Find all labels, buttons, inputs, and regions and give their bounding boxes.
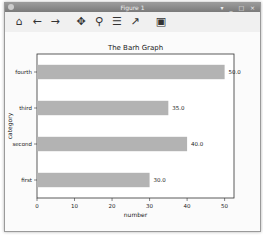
x-tick-label: 0: [35, 203, 39, 209]
y-axis-label: category: [6, 112, 14, 139]
x-tick-label: 50: [221, 203, 228, 209]
bar-first: [37, 173, 150, 187]
y-tick-label: fourth: [15, 69, 32, 75]
x-tick-label: 30: [146, 203, 153, 209]
x-axis-label: number: [124, 211, 148, 218]
x-tick-label: 40: [184, 203, 191, 209]
data-label: 50.0: [229, 69, 242, 75]
data-label: 30.0: [154, 177, 167, 183]
home-icon[interactable]: ⌂: [12, 15, 26, 29]
barh-chart: The Barh Graph30.0first40.0second35.0thi…: [5, 32, 260, 231]
data-label: 40.0: [191, 141, 204, 147]
y-tick-label: third: [19, 105, 32, 111]
zoom-icon[interactable]: ⚲: [92, 15, 106, 29]
x-tick-label: 10: [71, 203, 78, 209]
pan-icon[interactable]: ✥: [74, 15, 88, 29]
y-tick-label: first: [21, 177, 33, 183]
toolbar: ⌂ ← → ✥ ⚲ ☰ ↗ ▣: [5, 12, 260, 32]
figure-window: Figure 1 ▾ _ □ × ⌂ ← → ✥ ⚲ ☰ ↗ ▣ The Bar…: [4, 2, 261, 232]
y-tick-label: second: [12, 141, 32, 147]
title-bar: Figure 1 ▾ _ □ ×: [5, 3, 260, 12]
forward-icon[interactable]: →: [48, 15, 62, 29]
chart-title: The Barh Graph: [107, 44, 163, 52]
figure-canvas[interactable]: The Barh Graph30.0first40.0second35.0thi…: [5, 32, 260, 231]
bar-second: [37, 137, 187, 151]
window-controls[interactable]: ▾ _ □ ×: [221, 3, 257, 12]
bar-fourth: [37, 65, 225, 79]
save-icon[interactable]: ▣: [154, 15, 168, 29]
data-label: 35.0: [172, 105, 185, 111]
bar-third: [37, 101, 168, 115]
back-icon[interactable]: ←: [30, 15, 44, 29]
configure-subplots-icon[interactable]: ☰: [110, 15, 124, 29]
edit-axis-icon[interactable]: ↗: [128, 15, 142, 29]
x-tick-label: 20: [109, 203, 116, 209]
